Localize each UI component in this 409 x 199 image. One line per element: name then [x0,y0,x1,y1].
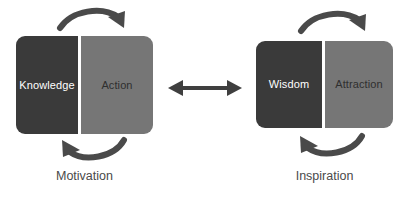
double-headed-arrow-icon [166,77,244,103]
panel-action[interactable]: Action [81,36,153,134]
caption-inspiration: Inspiration [256,170,393,183]
curved-arrow-bottom-left-unit [48,132,134,174]
panel-group-left: Knowledge Action [16,36,153,134]
panel-wisdom[interactable]: Wisdom [256,41,322,128]
curved-arrow-bottom-right-unit [286,128,372,170]
panel-action-label: Action [101,80,132,91]
diagram-canvas: Knowledge Action Motivation [0,0,409,199]
panel-attraction-label: Attraction [335,79,382,90]
panel-knowledge-label: Knowledge [19,80,74,91]
panel-wisdom-label: Wisdom [269,79,309,90]
curved-arrow-top-right-unit [293,5,379,45]
panel-group-right: Wisdom Attraction [256,41,393,128]
panel-knowledge[interactable]: Knowledge [16,36,78,134]
caption-motivation: Motivation [16,170,153,183]
panel-attraction[interactable]: Attraction [325,41,393,128]
